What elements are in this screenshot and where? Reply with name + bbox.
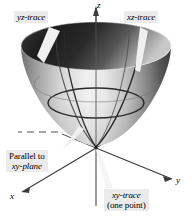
callout-xz-trace-label: xz-trace [127,12,155,22]
callout-yz-trace: yz-trace [14,11,48,23]
callout-xz-trace: xz-trace [124,11,158,23]
callout-parallel-line1: Parallel to [9,151,45,161]
callout-xy-trace-line1: xy-trace [107,190,146,200]
z-axis-label: z [97,1,101,10]
callout-xy-trace: xy-trace (one point) [104,189,149,211]
paraboloid-figure: yz-trace xz-trace Parallel to xy-plane x… [0,0,192,220]
callout-yz-trace-label: yz-trace [17,12,45,22]
origin-point [94,145,97,148]
callout-parallel-line2: xy-plane [9,161,45,171]
xy-trace-leader [96,150,113,188]
callout-xy-trace-line2: (one point) [107,200,146,210]
x-axis-label: x [10,192,14,201]
y-axis-label: y [176,176,180,185]
x-axis-arrowhead [22,187,30,193]
paraboloid-graphic [0,0,192,220]
callout-parallel-xy-plane: Parallel to xy-plane [6,150,48,172]
